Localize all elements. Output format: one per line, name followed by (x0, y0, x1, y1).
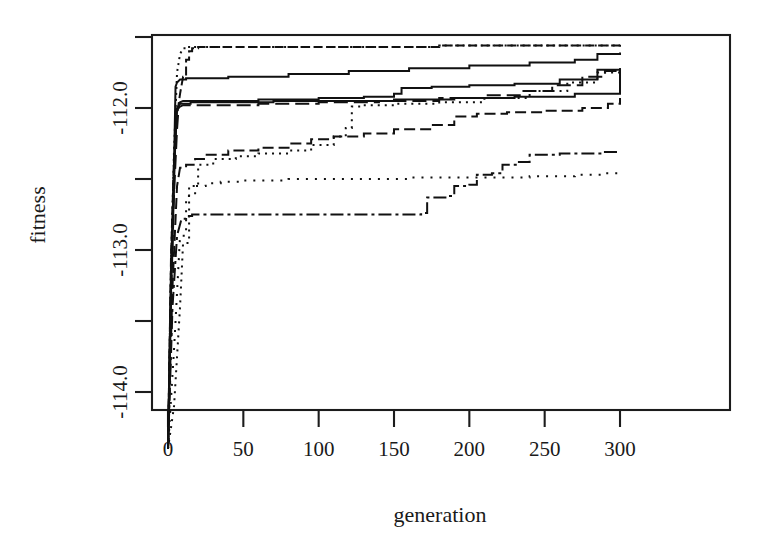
series-line-run-8 (168, 152, 620, 449)
x-tick-label: 200 (454, 437, 486, 461)
chart-canvas: -112.0-113.0-114.0 050100150200250300 fi… (0, 0, 767, 556)
plot-frame (152, 35, 730, 410)
x-tick-label: 150 (378, 437, 410, 461)
y-axis-title: fitness (25, 186, 50, 243)
x-tick-label: 250 (529, 437, 561, 461)
y-tick-label: -112.0 (108, 81, 132, 134)
series-line-run-4 (168, 70, 620, 449)
fitness-generation-chart: -112.0-113.0-114.0 050100150200250300 fi… (0, 0, 767, 556)
x-axis-title: generation (394, 502, 487, 527)
series-line-run-10 (168, 68, 620, 449)
series-line-run-3 (168, 68, 620, 449)
y-axis-tick-labels: -112.0-113.0-114.0 (108, 81, 132, 418)
y-tick-label: -114.0 (108, 365, 132, 418)
series-line-run-5 (168, 70, 620, 449)
x-tick-label: 50 (233, 437, 254, 461)
series-lines (168, 44, 620, 449)
series-line-run-2 (168, 53, 620, 449)
x-axis-tick-labels: 050100150200250300 (163, 437, 636, 461)
series-line-run-9 (168, 44, 620, 449)
x-tick-label: 300 (604, 437, 636, 461)
series-line-run-1 (168, 44, 620, 449)
x-axis-ticks (168, 410, 620, 427)
y-axis-ticks (135, 37, 152, 392)
y-tick-label: -113.0 (108, 223, 132, 276)
series-line-run-6 (168, 98, 620, 449)
x-tick-label: 100 (303, 437, 335, 461)
